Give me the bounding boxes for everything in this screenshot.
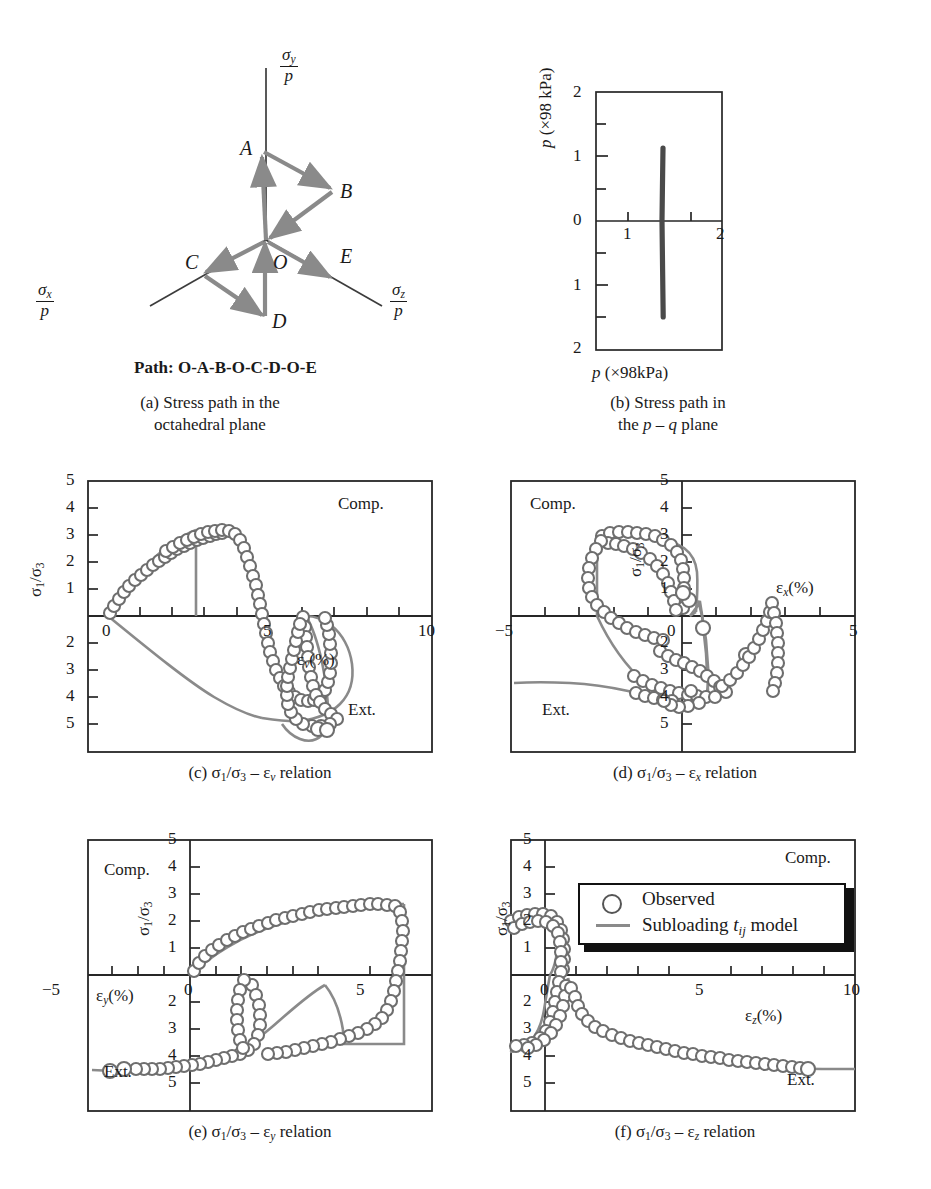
panel-f-ytick-3l: 3 — [523, 1018, 532, 1038]
legend-model-label: Subloading tij model — [642, 914, 798, 939]
panel-f-ytick-1u: 1 — [523, 937, 532, 957]
panel-e-ytick-1u: 1 — [168, 937, 177, 957]
panel-a-point-C: C — [185, 251, 198, 274]
panel-e-frame — [88, 840, 432, 1111]
panel-a-point-B: B — [340, 180, 352, 203]
panel-a-path-label: Path: O-A-B-O-C-D-O-E — [134, 358, 317, 378]
panel-e-ylabel: σ1/σ3 — [134, 901, 155, 936]
arrow-o-a — [262, 157, 266, 240]
panel-d-region-comp: Comp. — [530, 494, 576, 514]
panel-e-ytick-2u: 2 — [168, 910, 177, 930]
panel-b-ticks — [596, 124, 691, 317]
panel-f-caption: (f) σ1/σ3 – εz relation — [545, 1121, 825, 1145]
panel-f-region-comp: Comp. — [785, 848, 831, 868]
panel-a-caption-line1: (a) Stress path in the — [140, 393, 280, 412]
panel-f-region-ext: Ext. — [787, 1070, 815, 1090]
panel-c-ytick-3l: 3 — [66, 659, 75, 679]
panel-e-ytick-5u: 5 — [168, 829, 177, 849]
panel-e-ytick-4u: 4 — [168, 856, 177, 876]
panel-c-region-comp: Comp. — [338, 494, 384, 514]
panel-d-ytick-4l: 4 — [660, 686, 669, 706]
panel-a-caption: (a) Stress path in the octahedral plane — [90, 392, 330, 436]
panel-c-xtick-0: 0 — [102, 621, 111, 641]
panel-c-ytick-5u: 5 — [66, 470, 75, 490]
panel-c-ylabel: σ1/σ3 — [26, 562, 47, 597]
panel-e-region-ext: Ext. — [104, 1062, 132, 1082]
panel-e-ytick-3u: 3 — [168, 883, 177, 903]
panel-e-xlabel: εy(%) — [96, 986, 134, 1007]
panel-d-xtick-neg5: −5 — [495, 621, 513, 641]
panel-e-ytick-5l: 5 — [168, 1072, 177, 1092]
panel-c-ytick-4l: 4 — [66, 686, 75, 706]
arrow-o-c — [206, 242, 264, 272]
panel-a-point-O: O — [273, 251, 287, 274]
arrow-b-o — [270, 192, 332, 238]
panel-e-ytick-2l: 2 — [168, 991, 177, 1011]
panel-f-ytick-2l: 2 — [523, 991, 532, 1011]
panel-b-data-path — [662, 148, 663, 317]
panel-f-ylabel: σ1/σ3 — [492, 901, 513, 936]
panel-e-caption: (e) σ1/σ3 – εy relation — [120, 1121, 400, 1145]
panel-e-ytick-3l: 3 — [168, 1018, 177, 1038]
panel-d-model-curve — [514, 533, 709, 704]
panel-e-xtick-neg5: −5 — [42, 980, 60, 1000]
panel-e-ytick-4l: 4 — [168, 1045, 177, 1065]
panel-f-xlabel: εz(%) — [745, 1006, 782, 1027]
panel-d-ytick-1u: 1 — [660, 578, 669, 598]
panel-c-caption: (c) σ1/σ3 – εv relation — [120, 762, 400, 786]
panel-a-axis-label-sigma-y: σyp — [280, 46, 298, 84]
panel-c-observed-markers — [104, 524, 343, 737]
panel-f-ytick-5l: 5 — [523, 1072, 532, 1092]
panel-e-xtick-5: 5 — [356, 980, 365, 1000]
panel-a-point-D: D — [272, 310, 286, 333]
panel-d-xtick-5: 5 — [849, 621, 858, 641]
panel-d-ticks — [545, 508, 820, 724]
panel-c-model-curve — [108, 529, 353, 741]
panel-d-xlabel: εx(%) — [776, 578, 814, 599]
panel-d-ytick-3l: 3 — [660, 659, 669, 679]
panel-b-ytick-2-upper: 2 — [573, 82, 582, 102]
panel-f-legend: Observed Subloading tij model — [578, 883, 846, 945]
panel-c-ytick-2u: 2 — [66, 551, 75, 571]
figure-root: σyp σxp σzp A B C O D E Path: O-A-B-O-C-… — [0, 0, 931, 1189]
panel-a-point-A: A — [240, 137, 252, 160]
panel-d-xtick-0: 0 — [667, 621, 676, 641]
panel-b-ytick-2-lower: 2 — [573, 338, 582, 358]
panel-c-xtick-5: 5 — [263, 621, 272, 641]
panel-c-ytick-4u: 4 — [66, 497, 75, 517]
panel-f-ytick-4u: 4 — [523, 856, 532, 876]
arrow-c-d — [205, 276, 262, 315]
legend-model-line-icon — [596, 924, 630, 927]
panel-e-region-comp: Comp. — [104, 860, 150, 880]
panel-e-xtick-0: 0 — [184, 980, 193, 1000]
legend-observed-label: Observed — [642, 888, 715, 910]
panel-f-ytick-2u: 2 — [523, 910, 532, 930]
panel-d-ytick-5u: 5 — [660, 470, 669, 490]
panel-b-ylabel: p (×98 kPa) — [536, 68, 556, 148]
panel-a-axis-label-sigma-x: σxp — [36, 281, 54, 319]
panel-c-ticks — [88, 508, 399, 724]
panel-b-caption: (b) Stress path in the p – q plane — [558, 392, 778, 436]
panel-d-caption: (d) σ1/σ3 – εx relation — [545, 762, 825, 786]
legend-observed-marker-icon — [602, 894, 622, 914]
panel-d-ylabel: σ1/σ3 — [626, 542, 647, 577]
panel-d-ytick-3u: 3 — [660, 524, 669, 544]
panel-c-ytick-3u: 3 — [66, 524, 75, 544]
panel-d-region-ext: Ext. — [542, 700, 570, 720]
panel-a-caption-line2: octahedral plane — [154, 415, 266, 434]
panel-b-xlabel: p (×98kPa) — [592, 363, 668, 383]
panel-b-frame — [596, 92, 722, 350]
panel-a-stress-path — [205, 152, 332, 316]
panel-b-caption-line1: (b) Stress path in — [610, 393, 726, 412]
panel-c-ytick-2l: 2 — [66, 632, 75, 652]
panel-b-caption-line2: the p – q plane — [618, 415, 718, 434]
panel-d-ytick-4u: 4 — [660, 497, 669, 517]
panel-b-xtick-2: 2 — [716, 224, 725, 244]
panel-f-ytick-5u: 5 — [523, 829, 532, 849]
panel-c-ytick-1u: 1 — [66, 578, 75, 598]
panel-f-xtick-10: 10 — [843, 980, 860, 1000]
arrow-a-b — [264, 152, 330, 188]
panel-d-ytick-5l: 5 — [660, 713, 669, 733]
panel-c-xtick-10: 10 — [418, 621, 435, 641]
panel-f-xtick-0: 0 — [540, 980, 549, 1000]
